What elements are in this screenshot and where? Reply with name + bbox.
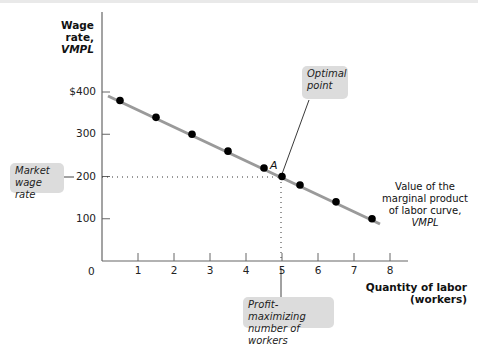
optimal-line2: point	[307, 80, 343, 92]
data-point	[296, 181, 304, 189]
data-point	[224, 147, 232, 155]
market-wage-callout: Market wage rate	[10, 163, 64, 193]
x-tick-label: 8	[380, 264, 400, 276]
profit-line1: Profit-maximizing	[248, 299, 329, 323]
y-axis-title-line2: VMPL	[56, 43, 94, 55]
curve-label-line3: of labor curve,	[375, 205, 475, 217]
y-axis-title-line1: Wage rate,	[42, 19, 94, 43]
y-axis-title: Wage rate, VMPL	[42, 19, 94, 55]
y-tick-label: $400	[56, 85, 96, 97]
x-tick-label: 5	[272, 264, 292, 276]
curve-label-line1: Value of the	[375, 181, 475, 193]
data-point	[278, 173, 286, 181]
x-tick-label: 4	[236, 264, 256, 276]
optimal-connector	[282, 100, 309, 174]
curve-label: Value of the marginal product of labor c…	[375, 181, 475, 229]
profit-line2: number of workers	[248, 323, 329, 347]
y-ticks	[102, 92, 110, 219]
data-point	[116, 97, 124, 105]
y-tick-label: 100	[56, 212, 96, 224]
origin-label: 0	[88, 265, 95, 277]
profit-max-callout: Profit-maximizing number of workers	[243, 297, 334, 328]
x-axis-title: Quantity of labor (workers)	[355, 281, 467, 305]
x-ticks	[138, 253, 390, 261]
x-axis-title-line2: (workers)	[355, 293, 467, 305]
curve-label-line4: VMPL	[375, 217, 475, 229]
y-tick-label: 300	[56, 127, 96, 139]
x-tick-label: 6	[308, 264, 328, 276]
x-tick-label: 1	[128, 264, 148, 276]
x-axis-title-line1: Quantity of labor	[355, 281, 467, 293]
data-point	[332, 198, 340, 206]
optimal-point-callout: Optimal point	[302, 66, 348, 99]
x-tick-label: 2	[164, 264, 184, 276]
market-wage-line1: Market	[15, 165, 59, 177]
optimal-line1: Optimal	[307, 68, 343, 80]
data-point	[152, 114, 160, 122]
x-tick-label: 7	[344, 264, 364, 276]
x-tick-label: 3	[200, 264, 220, 276]
vmpl-curve	[108, 96, 380, 224]
curve-label-line2: marginal product	[375, 193, 475, 205]
market-wage-line2: wage rate	[15, 177, 59, 201]
data-point	[188, 130, 196, 138]
data-point	[260, 164, 268, 172]
point-a-label: A	[270, 160, 278, 172]
